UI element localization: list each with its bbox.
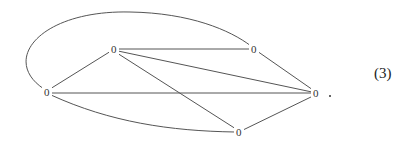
edge-left-top-right-arc (26, 12, 251, 89)
equation-number: (3) (374, 65, 392, 82)
node-top-right: 0 (251, 43, 257, 55)
edge-topright-right (257, 51, 313, 90)
edge-top-bottom (117, 53, 236, 129)
node-top: 0 (111, 43, 117, 55)
edge-bottom-right (243, 96, 313, 130)
node-right: 0 (313, 87, 319, 99)
period-dot (329, 95, 331, 97)
node-left: 0 (44, 86, 50, 98)
edge-top-right (118, 51, 312, 92)
node-bottom: 0 (236, 126, 242, 138)
edge-left-bottom (51, 95, 235, 132)
graph-diagram: 0 0 0 0 0 (0, 0, 399, 142)
edge-left-top (50, 51, 111, 89)
